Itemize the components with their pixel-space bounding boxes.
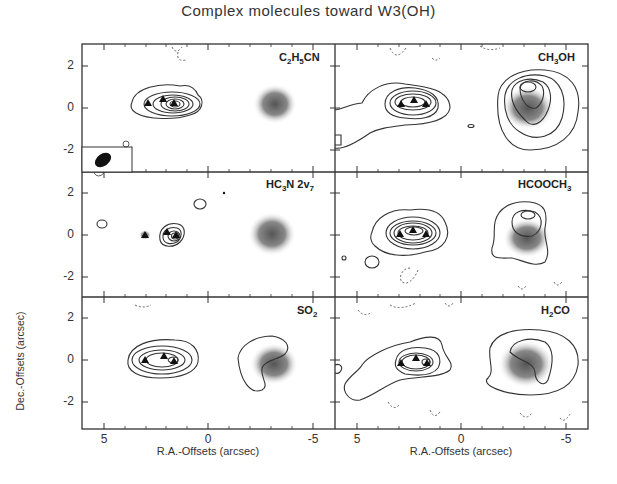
xtick-label: -5 bbox=[551, 432, 581, 446]
molecule-label-h2co: H2CO bbox=[541, 304, 570, 319]
xtick-label: 0 bbox=[446, 432, 476, 446]
ytick-label: 0 bbox=[46, 100, 74, 114]
ytick-label: -2 bbox=[46, 394, 74, 408]
xtick-label: 5 bbox=[342, 432, 372, 446]
ytick-label: 2 bbox=[46, 310, 74, 324]
panel-hc3n bbox=[97, 192, 296, 256]
ytick-label: 2 bbox=[46, 185, 74, 199]
xtick-label: 0 bbox=[193, 432, 223, 446]
molecule-label-ch3oh: CH3OH bbox=[538, 51, 575, 66]
panel-h2co bbox=[335, 303, 578, 420]
ytick-label: -2 bbox=[46, 142, 74, 156]
figure-canvas bbox=[0, 0, 617, 484]
y-axis-label: Dec.-Offsets (arcsec) bbox=[14, 301, 26, 421]
panel-c2h5cn bbox=[82, 47, 297, 176]
panel-hcooch3 bbox=[342, 202, 562, 289]
panel-so2 bbox=[128, 305, 298, 391]
figure-title: Complex molecules toward W3(OH) bbox=[0, 2, 617, 19]
ytick-label: 0 bbox=[46, 352, 74, 366]
xtick-label: -5 bbox=[298, 432, 328, 446]
molecule-label-hcooch3: HCOOCH3 bbox=[518, 178, 571, 193]
molecule-label-so2: SO2 bbox=[297, 304, 317, 319]
xtick-label: 5 bbox=[89, 432, 119, 446]
x-axis-label: R.A.-Offsets (arcsec) bbox=[361, 445, 561, 457]
ytick-label: 2 bbox=[46, 58, 74, 72]
ytick-label: 0 bbox=[46, 227, 74, 241]
molecule-label-c2h5cn: C2H5CN bbox=[279, 51, 320, 66]
ytick-label: -2 bbox=[46, 269, 74, 283]
x-axis-label: R.A.-Offsets (arcsec) bbox=[108, 445, 308, 457]
molecule-label-hc3n: HC3N 2v7 bbox=[266, 178, 314, 193]
